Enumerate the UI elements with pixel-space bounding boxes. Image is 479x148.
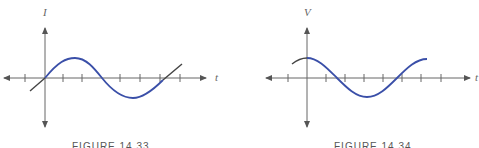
curve-extension-left-start [30, 78, 45, 91]
figures-canvas [0, 0, 479, 148]
figure-caption-right: FIGURE 14.34 [334, 141, 412, 148]
figure-caption-left: FIGURE 14.33 [72, 141, 150, 148]
x-axis-label-left: t [215, 71, 218, 83]
curve-extension-right-start [292, 58, 307, 64]
figure-left-graph [4, 28, 206, 127]
y-axis-label-right: V [304, 6, 311, 18]
figure-right-graph [266, 28, 470, 127]
y-axis-label-left: I [43, 6, 47, 18]
x-axis-label-right: t [475, 71, 478, 83]
